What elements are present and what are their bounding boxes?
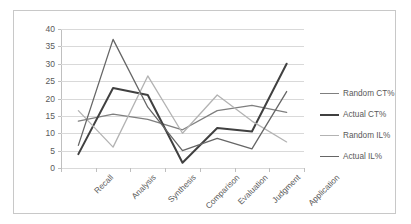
legend-swatch-icon <box>320 114 339 116</box>
plot-area <box>61 29 304 170</box>
x-axis-label: Comparison <box>203 173 241 211</box>
legend-item[interactable]: Actual IL% <box>320 148 406 165</box>
legend-item[interactable]: Random IL% <box>320 127 406 144</box>
x-axis-label: Synthesis <box>166 173 197 204</box>
x-axis-label: Judgment <box>270 173 302 205</box>
legend-swatch-icon <box>320 135 339 136</box>
chart-legend: Random CT%Actual CT%Random IL%Actual IL% <box>320 85 406 169</box>
legend-swatch-icon <box>320 93 339 94</box>
x-axis-label: Application <box>306 173 341 208</box>
y-axis-label: 10 <box>27 128 55 138</box>
legend-label: Actual CT% <box>343 110 386 119</box>
chart-container: 4035302520151050 RecallAnalysisSynthesis… <box>0 0 411 224</box>
x-axis-label: Recall <box>93 173 115 195</box>
x-axis-label: Analysis <box>130 173 158 201</box>
chart-frame: 4035302520151050 RecallAnalysisSynthesis… <box>13 10 396 214</box>
x-axis-tick <box>304 168 305 172</box>
legend-label: Random CT% <box>343 89 394 98</box>
legend-item[interactable]: Random CT% <box>320 85 406 102</box>
y-axis-label: 0 <box>27 163 55 173</box>
legend-label: Actual IL% <box>343 152 382 161</box>
y-axis-label: 30 <box>27 59 55 69</box>
series-line <box>78 76 286 147</box>
series-lines <box>61 29 304 170</box>
y-axis-label: 15 <box>27 111 55 121</box>
y-axis-label: 5 <box>27 146 55 156</box>
legend-swatch-icon <box>320 156 339 157</box>
series-line <box>78 64 286 163</box>
legend-label: Random IL% <box>343 131 390 140</box>
y-axis-label: 20 <box>27 94 55 104</box>
x-axis-label: Evaluation <box>236 173 269 206</box>
y-axis-label: 25 <box>27 76 55 86</box>
y-axis-label: 35 <box>27 41 55 51</box>
y-axis-label: 40 <box>27 24 55 34</box>
legend-item[interactable]: Actual CT% <box>320 106 406 123</box>
